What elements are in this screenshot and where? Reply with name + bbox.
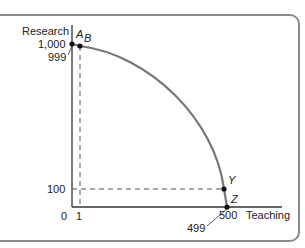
point-b [77,43,82,48]
x-axis-label: Teaching [246,209,290,221]
y-tick-100: 100 [47,183,65,195]
point-a [69,41,74,46]
x-tick-499: 499 [187,222,205,234]
y-tick-999: 999 [48,51,66,63]
frontier-curve [72,44,227,207]
point-label-y: Y [228,174,236,186]
point-label-b: B [84,32,91,44]
point-label-z: Z [230,193,239,205]
point-label-a: A [75,28,83,40]
x-tick-500: 500 [219,209,237,221]
point-y [221,186,226,191]
x-tick-0: 0 [61,210,67,222]
ppf-chart: Research 1,000 999 100 0 1 499 500 Teach… [0,0,305,248]
y-axis-label: Research [22,25,69,37]
y-tick-1000: 1,000 [38,38,66,50]
x-tick-1: 1 [76,210,82,222]
